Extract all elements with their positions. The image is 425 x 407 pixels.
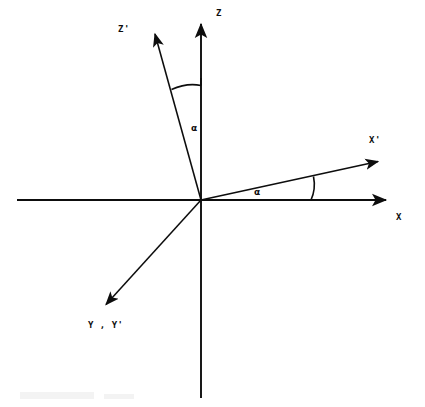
scan-artifact <box>104 394 134 399</box>
axis-label-x-prime: X' <box>369 136 381 145</box>
angle-arc-z <box>172 85 202 90</box>
angle-symbol-x: α <box>254 188 260 197</box>
angle-arc-x <box>311 177 314 201</box>
axis-line-x-prime <box>201 162 378 201</box>
axis-line-z-prime <box>155 34 201 200</box>
axes-drawing <box>0 0 425 407</box>
axis-label-y-y-prime: Y , Y' <box>88 321 124 330</box>
scan-artifact <box>20 392 94 399</box>
axis-label-z-prime: Z' <box>118 25 130 34</box>
coordinate-axes-figure: Z Z' X X' Y , Y' α α <box>0 0 425 407</box>
axis-label-z: Z <box>216 9 222 18</box>
axis-label-x: X <box>396 213 402 222</box>
axis-line-y-y-prime <box>106 200 201 305</box>
angle-symbol-z: α <box>191 124 197 133</box>
